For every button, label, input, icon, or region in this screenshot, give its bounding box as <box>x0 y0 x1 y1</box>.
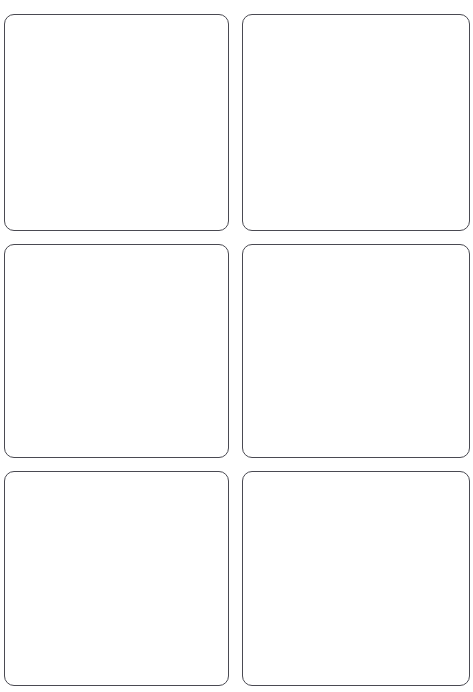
label-card-4-content <box>243 245 469 457</box>
label-card-6[interactable] <box>242 471 470 686</box>
label-card-3[interactable] <box>4 244 229 458</box>
label-card-5[interactable] <box>4 471 229 686</box>
label-card-1[interactable] <box>4 14 229 231</box>
label-sheet-grid <box>0 0 473 692</box>
label-card-1-content <box>5 15 228 230</box>
label-card-5-content <box>5 472 228 685</box>
label-card-6-content <box>243 472 469 685</box>
label-card-3-content <box>5 245 228 457</box>
label-card-2-content <box>243 15 469 230</box>
label-card-2[interactable] <box>242 14 470 231</box>
label-card-4[interactable] <box>242 244 470 458</box>
page-canvas <box>0 0 473 692</box>
